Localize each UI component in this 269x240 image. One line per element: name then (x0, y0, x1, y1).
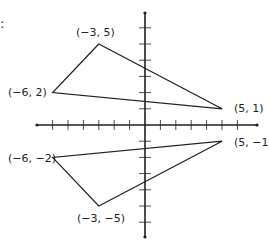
vertex-label: (−3, 5) (76, 26, 115, 39)
upper-triangle (53, 44, 222, 109)
lower-triangle (53, 141, 222, 206)
axis-end-dot (143, 235, 146, 238)
axes (35, 11, 258, 238)
coordinate-plane: (−3, 5)(−6, 2)(5, 1)(−6, −2)(−3, −5)(5, … (0, 0, 269, 240)
axis-end-dot (143, 11, 146, 14)
vertex-label: (5, −1) (234, 136, 269, 149)
axis-end-dot (255, 123, 258, 126)
vertex-label: (−3, −5) (77, 212, 125, 225)
vertex-label: (−6, −2) (8, 152, 56, 165)
axis-end-dot (35, 123, 38, 126)
vertex-label: (−6, 2) (8, 86, 47, 99)
vertex-label: (5, 1) (234, 102, 264, 115)
